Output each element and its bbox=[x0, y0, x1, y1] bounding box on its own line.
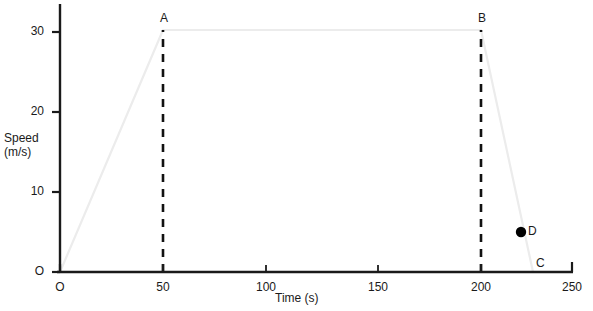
x-tick-label-200: 200 bbox=[461, 281, 501, 294]
point-d-marker bbox=[516, 227, 526, 237]
x-tick-label-50: 50 bbox=[143, 281, 183, 294]
x-tick-label-150: 150 bbox=[358, 281, 398, 294]
x-tick-label-100: 100 bbox=[246, 281, 286, 294]
x-tick-label-250: 250 bbox=[552, 281, 592, 294]
x-axis-title: Time (s) bbox=[275, 292, 355, 305]
point-label-b: B bbox=[478, 12, 486, 25]
point-label-c: C bbox=[536, 257, 545, 270]
y-axis-title-line1: Speed bbox=[4, 131, 39, 145]
y-axis-title-line2: (m/s) bbox=[4, 145, 31, 159]
y-tick-label-30: 30 bbox=[14, 25, 44, 38]
speed-time-graph: Speed(m/s) Time (s) 30 20 10 O O 50 100 … bbox=[0, 0, 593, 311]
point-label-d: D bbox=[528, 225, 537, 238]
y-tick-label-20: 20 bbox=[14, 105, 44, 118]
y-tick-label-0: O bbox=[14, 265, 44, 278]
plot-area bbox=[0, 0, 593, 311]
speed-time-curve bbox=[60, 30, 533, 272]
y-axis-title: Speed(m/s) bbox=[4, 131, 58, 159]
x-tick-label-0: O bbox=[40, 281, 80, 294]
y-tick-label-10: 10 bbox=[14, 185, 44, 198]
point-label-a: A bbox=[160, 12, 168, 25]
